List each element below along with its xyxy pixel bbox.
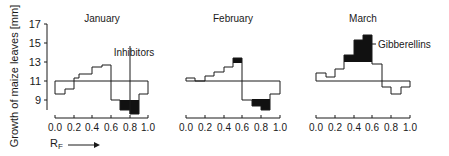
y-tick-13: 13 [29, 56, 41, 68]
x-tick-0.8: 0.8 [254, 122, 268, 133]
panel-title-january: January [84, 13, 120, 24]
x-tick-0.0: 0.0 [48, 122, 62, 133]
x-tick-0.6: 0.6 [365, 122, 379, 133]
x-tick-0.0: 0.0 [179, 122, 193, 133]
x-tick-0.0: 0.0 [309, 122, 323, 133]
y-tick-17: 17 [29, 18, 41, 30]
panel-february: February 0.0 0.2 0.4 0.6 0.8 1.0 [179, 13, 287, 133]
x-tick-0.8: 0.8 [123, 122, 137, 133]
x-tick-0.4: 0.4 [217, 122, 231, 133]
x-tick-1.0: 1.0 [403, 122, 417, 133]
annotation-gibberellins: Gibberellins [378, 39, 431, 50]
y-axis-label: Growth of maize leaves [mm] [8, 5, 20, 147]
x-tick-1.0: 1.0 [273, 122, 287, 133]
x-tick-0.2: 0.2 [328, 122, 342, 133]
svg-text:RF: RF [50, 137, 63, 151]
arrow-right-icon [94, 142, 100, 148]
x-tick-0.4: 0.4 [347, 122, 361, 133]
y-axis: 17 15 13 11 9 [29, 18, 47, 110]
x-axis-label: RF [50, 137, 100, 151]
x-tick-0.6: 0.6 [104, 122, 118, 133]
x-tick-0.8: 0.8 [384, 122, 398, 133]
y-tick-15: 15 [29, 37, 41, 49]
y-tick-9: 9 [35, 94, 41, 106]
panel-january: January Inhibitors 0.0 0.2 0.4 0.6 0.8 1… [48, 13, 155, 133]
x-tick-1.0: 1.0 [141, 122, 155, 133]
x-tick-0.2: 0.2 [67, 122, 81, 133]
chart-figure: Growth of maize leaves [mm] 17 15 13 11 … [0, 0, 449, 156]
panel-march: March Gibberellins 0.0 0.2 0.4 0.6 0.8 1… [309, 13, 431, 133]
panel-title-february: February [213, 13, 253, 24]
y-tick-11: 11 [30, 75, 41, 87]
x-tick-0.2: 0.2 [198, 122, 212, 133]
annotation-inhibitors: Inhibitors [114, 47, 155, 58]
panel-title-march: March [349, 13, 377, 24]
x-tick-0.6: 0.6 [235, 122, 249, 133]
x-tick-0.4: 0.4 [85, 122, 99, 133]
